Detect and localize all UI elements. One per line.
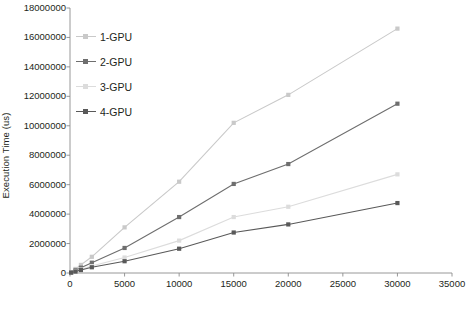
series-line [71, 104, 397, 273]
legend-item-4-gpu[interactable]: 4-GPU [76, 99, 186, 124]
data-point [232, 230, 236, 234]
series-3-gpu [69, 172, 400, 274]
legend-swatch-icon [76, 57, 96, 67]
x-axis-ticks [70, 273, 452, 277]
data-point [69, 271, 73, 275]
data-point [395, 172, 399, 176]
legend: 1-GPU2-GPU3-GPU4-GPU [76, 24, 186, 124]
data-point [232, 182, 236, 186]
data-point [73, 269, 77, 273]
data-point [232, 215, 236, 219]
legend-label: 4-GPU [100, 106, 132, 118]
data-point [177, 239, 181, 243]
legend-swatch-icon [76, 32, 96, 42]
execution-time-line-chart: Execution Time (us) 02000000400000060000… [0, 0, 470, 311]
data-point [395, 27, 399, 31]
legend-item-3-gpu[interactable]: 3-GPU [76, 74, 186, 99]
data-point [286, 205, 290, 209]
data-point [90, 255, 94, 259]
plot-area [0, 0, 470, 311]
series-line [71, 203, 397, 273]
data-point [177, 180, 181, 184]
series-4-gpu [69, 201, 400, 275]
legend-label: 3-GPU [100, 81, 132, 93]
data-point [395, 102, 399, 106]
data-point [79, 268, 83, 272]
legend-item-2-gpu[interactable]: 2-GPU [76, 49, 186, 74]
data-point [286, 162, 290, 166]
data-point [395, 201, 399, 205]
legend-label: 2-GPU [100, 56, 132, 68]
data-point [122, 225, 126, 229]
legend-item-1-gpu[interactable]: 1-GPU [76, 24, 186, 49]
data-point [122, 259, 126, 263]
data-point [286, 93, 290, 97]
legend-swatch-icon [76, 107, 96, 117]
data-point [90, 265, 94, 269]
y-axis-ticks [67, 8, 71, 273]
data-point [232, 121, 236, 125]
data-point [286, 222, 290, 226]
data-point [122, 255, 126, 259]
data-point [177, 215, 181, 219]
legend-label: 1-GPU [100, 31, 132, 43]
data-point [177, 247, 181, 251]
legend-swatch-icon [76, 82, 96, 92]
data-point [122, 246, 126, 250]
series-line [71, 174, 397, 272]
